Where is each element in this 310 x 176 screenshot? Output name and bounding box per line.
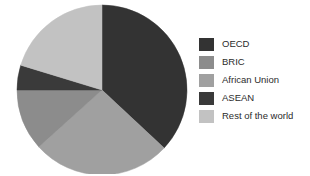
legend-item-label: BRIC xyxy=(222,57,245,67)
legend-item-oecd[interactable]: OECD xyxy=(199,37,307,51)
legend-item-bric[interactable]: BRIC xyxy=(199,55,307,69)
legend-item-african-union[interactable]: African Union xyxy=(199,73,307,87)
legend-swatch-icon xyxy=(199,110,214,123)
legend-swatch-icon xyxy=(199,92,214,105)
legend-item-rest-of-the-world[interactable]: Rest of the world xyxy=(199,109,307,123)
pie-svg xyxy=(14,2,190,174)
pie-chart-plot-area xyxy=(14,2,190,174)
chart-legend: OECDBRICAfrican UnionASEANRest of the wo… xyxy=(199,37,307,123)
pie-chart-figure: OECDBRICAfrican UnionASEANRest of the wo… xyxy=(0,0,310,176)
legend-item-asean[interactable]: ASEAN xyxy=(199,91,307,105)
pie-slice-group xyxy=(17,5,187,174)
legend-swatch-icon xyxy=(199,56,214,69)
legend-item-label: ASEAN xyxy=(222,93,254,103)
legend-item-label: OECD xyxy=(222,39,249,49)
legend-swatch-icon xyxy=(199,38,214,51)
legend-item-label: African Union xyxy=(222,75,279,85)
legend-item-label: Rest of the world xyxy=(222,111,293,121)
legend-swatch-icon xyxy=(199,74,214,87)
